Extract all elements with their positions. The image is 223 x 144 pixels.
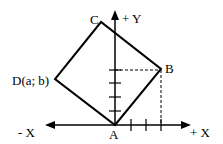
x-negative-label: - X [18,126,35,139]
square-abcd [55,22,161,125]
y-axis-positive-arrow-icon [111,10,119,20]
point-c-label: C [90,13,99,26]
x-positive-label: + X [190,126,210,139]
x-axis-negative-arrow-icon [45,121,55,129]
point-b-label: B [165,62,174,75]
point-d-label: D(a; b) [12,74,49,87]
y-positive-label: + Y [122,12,142,25]
coordinate-diagram [0,0,223,144]
point-a-label: A [109,128,118,141]
